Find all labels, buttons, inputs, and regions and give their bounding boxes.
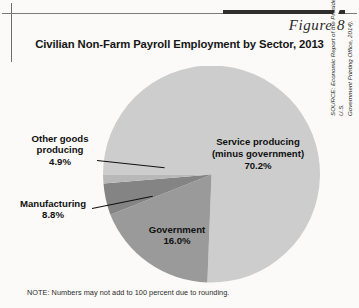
pie-chart-svg bbox=[103, 66, 320, 283]
slice-value: 8.8% bbox=[12, 209, 94, 220]
slice-label-other-goods-producing: Other goods producing 4.9% bbox=[22, 133, 98, 167]
chart-source: SOURCE: Economic Report of the President… bbox=[329, 0, 354, 116]
chart-source-line: SOURCE: Economic Report of the President… bbox=[329, 0, 346, 116]
chart-note: NOTE: Numbers may not add to 100 percent… bbox=[27, 288, 229, 297]
slice-label-line: (minus government) bbox=[196, 148, 320, 160]
pie-chart bbox=[103, 66, 320, 283]
figure-page: Figure 8 Civilian Non-Farm Payroll Emplo… bbox=[0, 0, 359, 308]
slice-label-line: Other goods bbox=[22, 133, 98, 144]
slice-label-line: Government bbox=[131, 224, 223, 235]
chart-source-line: Government Printing Office, 2014). bbox=[346, 0, 354, 116]
slice-label-line: Manufacturing bbox=[12, 198, 94, 209]
slice-value: 70.2% bbox=[196, 160, 320, 172]
slice-value: 4.9% bbox=[22, 156, 98, 167]
crop-mark-vertical bbox=[11, 3, 12, 62]
slice-label-government: Government 16.0% bbox=[131, 224, 223, 247]
chart-title: Civilian Non-Farm Payroll Employment by … bbox=[0, 38, 359, 50]
slice-label-service-producing: Service producing (minus government) 70.… bbox=[196, 136, 320, 172]
header-accent-bar bbox=[223, 10, 345, 14]
slice-label-line: producing bbox=[22, 144, 98, 155]
slice-label-line: Service producing bbox=[196, 136, 320, 148]
slice-value: 16.0% bbox=[131, 235, 223, 246]
slice-label-manufacturing: Manufacturing 8.8% bbox=[12, 198, 94, 221]
